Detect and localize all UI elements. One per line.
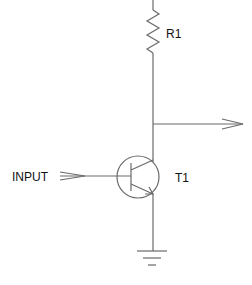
input-label: INPUT xyxy=(12,170,49,184)
t1-label: T1 xyxy=(175,171,189,185)
resistor-r1-icon xyxy=(147,10,159,53)
schematic-canvas: R1 T1 INPUT xyxy=(0,0,252,285)
ground-icon xyxy=(137,251,167,265)
transistor-t1-icon xyxy=(117,156,159,198)
r1-label: R1 xyxy=(166,27,182,41)
